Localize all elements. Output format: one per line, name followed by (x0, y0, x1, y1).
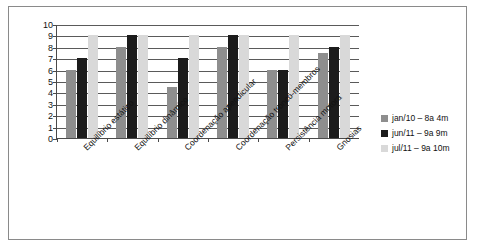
legend-item: jul/11 – 9a 10m (381, 141, 467, 156)
bar (77, 58, 87, 138)
y-axis-tick-label: 1 (48, 123, 53, 132)
bar (189, 35, 199, 138)
bar (318, 53, 328, 139)
bar (340, 35, 350, 138)
chart-legend: jan/10 – 8a 4mjun/11 – 9a 9mjul/11 – 9a … (381, 111, 467, 156)
x-axis-tick-mark (309, 138, 310, 142)
y-axis-tick-label: 8 (48, 43, 53, 52)
x-axis-tick-mark (208, 138, 209, 142)
legend-item-label: jun/11 – 9a 9m (392, 129, 448, 138)
legend-item-label: jan/10 – 8a 4m (392, 114, 448, 123)
y-axis-tick-label: 2 (48, 112, 53, 121)
bar (66, 70, 76, 138)
legend-item: jun/11 – 9a 9m (381, 126, 467, 141)
y-axis-tick-label: 5 (48, 78, 53, 87)
chart-figure: 012345678910 Equilíbrio estáticoEquilíbr… (8, 6, 467, 240)
bar (88, 35, 98, 138)
bar (217, 47, 227, 138)
legend-item-label: jul/11 – 9a 10m (392, 144, 450, 153)
bar (138, 35, 148, 138)
bar (228, 35, 238, 138)
x-axis-tick-mark (57, 138, 58, 142)
y-axis-tick-label: 9 (48, 32, 53, 41)
x-axis-tick-mark (258, 138, 259, 142)
x-axis-tick-mark (107, 138, 108, 142)
legend-swatch-light (381, 145, 388, 152)
legend-item: jan/10 – 8a 4m (381, 111, 467, 126)
bar (127, 35, 137, 138)
y-axis-tick-label: 10 (43, 21, 53, 30)
y-axis-tick-label: 7 (48, 55, 53, 64)
y-axis-tick-label: 3 (48, 100, 53, 109)
y-axis-tick-label: 0 (48, 135, 53, 144)
x-axis-tick-mark (158, 138, 159, 142)
y-axis-tick-label: 6 (48, 66, 53, 75)
bar (116, 47, 126, 138)
legend-swatch-gray (381, 115, 388, 122)
y-axis-tick-label: 4 (48, 89, 53, 98)
legend-swatch-black (381, 130, 388, 137)
bar-group (57, 25, 107, 138)
